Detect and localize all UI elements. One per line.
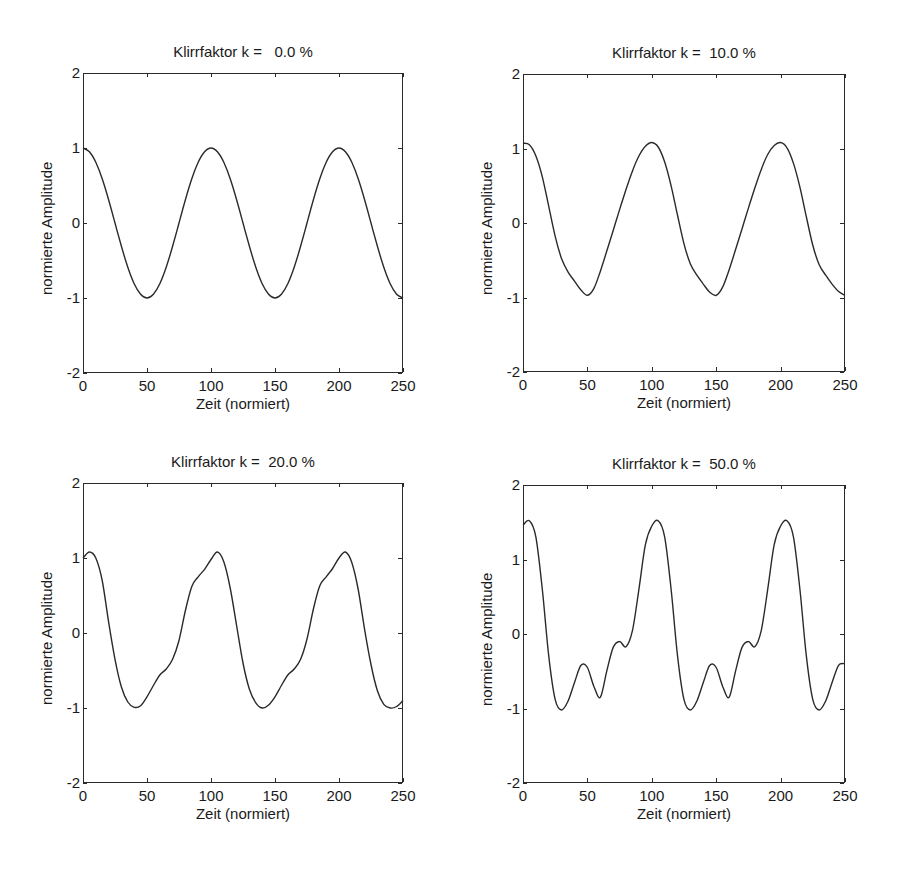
x-tick-label: 100 — [191, 377, 231, 394]
y-tick-mark — [840, 783, 844, 784]
y-tick-label: 1 — [56, 549, 80, 566]
y-tick-label: 0 — [56, 624, 80, 641]
x-tick-label: 0 — [503, 376, 543, 393]
y-tick-label: 1 — [496, 140, 520, 157]
x-axis-label: Zeit (normiert) — [524, 805, 844, 822]
x-tick-label: 150 — [255, 377, 295, 394]
x-tick-label: 250 — [825, 376, 865, 393]
x-tick-label: 50 — [127, 377, 167, 394]
y-axis-label: normierte Amplitude — [478, 573, 495, 706]
y-tick-label: -1 — [56, 699, 80, 716]
y-tick-mark — [398, 373, 402, 374]
y-tick-mark — [523, 783, 527, 784]
x-tick-label: 0 — [63, 787, 103, 804]
x-tick-label: 50 — [127, 787, 167, 804]
x-tick-mark — [403, 483, 404, 487]
x-tick-label: 200 — [319, 377, 359, 394]
plot-title: Klirrfaktor k = 20.0 % — [83, 453, 403, 470]
waveform-line — [83, 73, 403, 373]
x-tick-label: 200 — [319, 787, 359, 804]
y-tick-mark — [83, 783, 87, 784]
y-axis-label: normierte Amplitude — [38, 162, 55, 295]
x-tick-label: 200 — [761, 787, 801, 804]
y-tick-label: 2 — [56, 474, 80, 491]
x-tick-mark — [403, 368, 404, 372]
y-tick-label: -1 — [496, 289, 520, 306]
x-axis-label: Zeit (normiert) — [524, 394, 844, 411]
x-tick-mark — [845, 367, 846, 371]
y-tick-label: 0 — [56, 214, 80, 231]
y-tick-label: 2 — [496, 476, 520, 493]
x-tick-mark — [403, 73, 404, 77]
x-tick-mark — [845, 778, 846, 782]
y-tick-label: 0 — [496, 214, 520, 231]
x-tick-label: 200 — [761, 376, 801, 393]
x-tick-mark — [845, 485, 846, 489]
x-tick-label: 250 — [383, 787, 423, 804]
y-tick-label: 2 — [496, 65, 520, 82]
x-tick-label: 250 — [825, 787, 865, 804]
x-tick-label: 100 — [632, 787, 672, 804]
y-tick-label: 0 — [496, 625, 520, 642]
y-tick-label: -1 — [496, 700, 520, 717]
waveform-line — [523, 74, 845, 372]
x-tick-label: 100 — [632, 376, 672, 393]
x-tick-label: 150 — [696, 376, 736, 393]
y-tick-label: 1 — [56, 139, 80, 156]
waveform-line — [523, 485, 845, 783]
y-axis-label: normierte Amplitude — [38, 572, 55, 705]
plot-title: Klirrfaktor k = 10.0 % — [523, 44, 845, 61]
x-axis-label: Zeit (normiert) — [83, 395, 403, 412]
y-tick-mark — [398, 783, 402, 784]
x-tick-mark — [845, 74, 846, 78]
x-tick-label: 100 — [191, 787, 231, 804]
x-axis-label: Zeit (normiert) — [83, 805, 403, 822]
x-tick-label: 50 — [567, 787, 607, 804]
x-tick-label: 50 — [567, 376, 607, 393]
x-tick-label: 0 — [503, 787, 543, 804]
plot-title: Klirrfaktor k = 0.0 % — [83, 43, 403, 60]
x-tick-label: 250 — [383, 377, 423, 394]
x-tick-mark — [403, 778, 404, 782]
x-tick-label: 150 — [696, 787, 736, 804]
y-tick-mark — [523, 372, 527, 373]
y-tick-mark — [83, 373, 87, 374]
waveform-line — [83, 483, 403, 783]
plot-title: Klirrfaktor k = 50.0 % — [523, 455, 845, 472]
y-tick-label: -1 — [56, 289, 80, 306]
y-tick-mark — [840, 372, 844, 373]
y-tick-label: 2 — [56, 64, 80, 81]
x-tick-label: 0 — [63, 377, 103, 394]
y-axis-label: normierte Amplitude — [478, 162, 495, 295]
x-tick-label: 150 — [255, 787, 295, 804]
y-tick-label: 1 — [496, 551, 520, 568]
